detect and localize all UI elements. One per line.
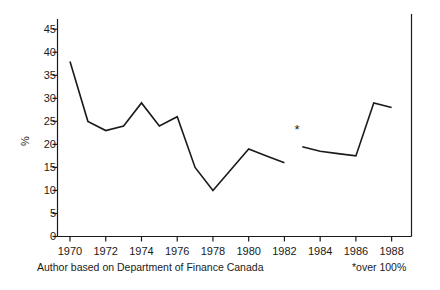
x-axis-tick-labels: 1970197219741976197819801982198419861988 — [0, 0, 440, 290]
chart-figure: % 051015202530354045 * 19701972197419761… — [0, 0, 440, 290]
x-tick-label: 1976 — [157, 246, 197, 257]
x-tick-label: 1984 — [300, 246, 340, 257]
x-tick-label: 1978 — [193, 246, 233, 257]
x-tick-label: 1974 — [121, 246, 161, 257]
x-tick-label: 1970 — [50, 246, 90, 257]
x-tick-label: 1972 — [86, 246, 126, 257]
x-tick-label: 1982 — [264, 246, 304, 257]
x-tick-label: 1986 — [336, 246, 376, 257]
footnote-text: *over 100% — [352, 261, 406, 273]
x-tick-label: 1988 — [372, 246, 412, 257]
source-caption: Author based on Department of Finance Ca… — [37, 261, 263, 273]
x-tick-label: 1980 — [229, 246, 269, 257]
